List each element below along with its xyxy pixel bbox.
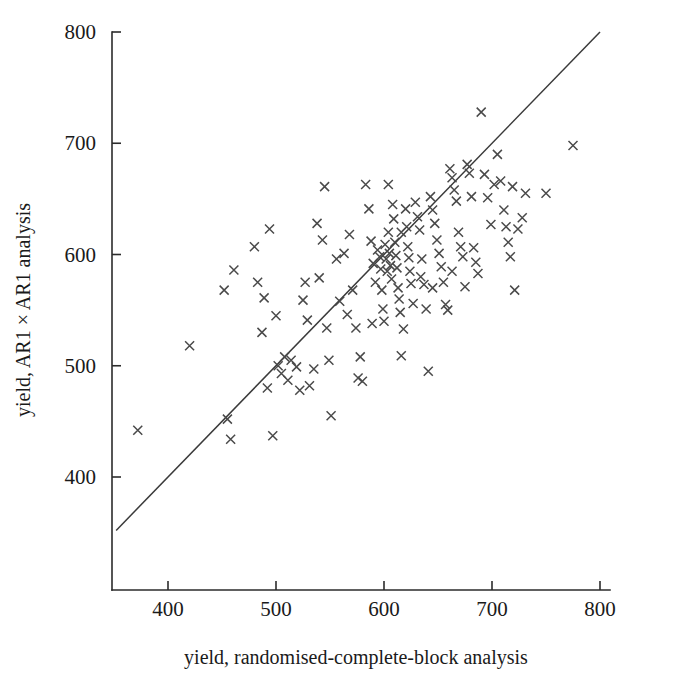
data-point-marker [569,141,578,150]
data-points [133,108,577,444]
x-tick-label: 600 [368,597,400,621]
data-point-marker [518,213,527,222]
data-point-marker [411,198,420,207]
data-point-marker [448,173,457,182]
data-point-marker [510,286,519,295]
data-point-marker [318,236,327,245]
data-point-marker [361,180,370,189]
data-point-marker [377,286,386,295]
data-point-marker [343,310,352,319]
data-point-marker [340,249,349,258]
data-point-marker [257,328,266,337]
data-point-marker [401,204,410,213]
y-tick-label: 800 [65,20,97,44]
data-point-marker [499,206,508,215]
x-tick-label: 400 [152,597,184,621]
data-point-marker [486,220,495,229]
data-point-marker [504,238,513,247]
data-point-marker [391,251,400,260]
data-point-marker [390,238,399,247]
scatter-plot-figure: 400500600700800 400500600700800 yield, r… [0,0,676,681]
data-point-marker [428,206,437,215]
data-point-marker [477,108,486,117]
data-point-marker [367,237,376,246]
identity-line [116,32,600,530]
data-point-marker [458,252,467,261]
y-tick-label: 700 [65,131,97,155]
data-point-marker [376,264,385,273]
data-point-marker [409,299,418,308]
data-point-marker [465,169,474,178]
data-point-marker [265,224,274,233]
data-point-marker [471,258,480,267]
data-point-marker [448,267,457,276]
x-tick-labels: 400500600700800 [152,597,616,621]
data-point-marker [320,182,329,191]
data-point-marker [405,267,414,276]
data-point-marker [378,305,387,314]
data-point-marker [469,243,478,252]
data-point-marker [416,272,425,281]
tick-marks [112,32,600,590]
data-point-marker [260,293,269,302]
data-point-marker [473,269,482,278]
data-point-marker [322,323,331,332]
data-point-marker [226,435,235,444]
plot-canvas: 400500600700800 400500600700800 yield, r… [0,0,676,681]
data-point-marker [435,249,444,258]
data-point-marker [422,305,431,314]
data-point-marker [452,197,461,206]
data-point-marker [437,262,446,271]
data-point-marker [415,226,424,235]
data-point-marker [389,214,398,223]
data-point-marker [483,193,492,202]
data-point-marker [461,282,470,291]
data-point-marker [371,278,380,287]
data-point-marker [301,278,310,287]
data-point-marker [430,219,439,228]
data-point-marker [250,242,259,251]
x-axis-title: yield, randomised-complete-block analysi… [184,646,528,669]
data-point-marker [133,426,142,435]
data-point-marker [373,246,382,255]
data-point-marker [253,278,262,287]
y-tick-label: 500 [65,354,97,378]
data-point-marker [292,362,301,371]
data-point-marker [356,352,365,361]
data-point-marker [480,170,489,179]
data-point-marker [542,189,551,198]
data-point-marker [513,224,522,233]
data-point-marker [309,365,318,374]
data-point-marker [506,252,515,261]
data-point-marker [327,411,336,420]
data-point-marker [303,316,312,325]
data-point-marker [521,189,530,198]
y-tick-label: 400 [65,465,97,489]
data-point-marker [502,222,511,231]
x-tick-label: 700 [476,597,508,621]
data-point-marker [395,295,404,304]
x-tick-label: 500 [260,597,292,621]
y-tick-label: 600 [65,243,97,267]
data-point-marker [399,325,408,334]
data-point-marker [185,341,194,350]
x-tick-label: 800 [584,597,616,621]
y-tick-labels: 400500600700800 [65,20,97,489]
data-point-marker [220,286,229,295]
data-point-marker [381,240,390,249]
data-point-marker [384,228,393,237]
data-point-marker [263,384,272,393]
data-point-marker [272,311,281,320]
data-point-marker [404,253,413,262]
identity-reference-line [116,32,600,530]
data-point-marker [351,323,360,332]
data-point-marker [368,319,377,328]
data-point-marker [456,242,465,251]
data-point-marker [364,204,373,213]
data-point-marker [417,254,426,263]
data-point-marker [467,192,476,201]
data-point-marker [396,308,405,317]
data-point-marker [335,297,344,306]
data-point-marker [397,351,406,360]
data-point-marker [345,230,354,239]
